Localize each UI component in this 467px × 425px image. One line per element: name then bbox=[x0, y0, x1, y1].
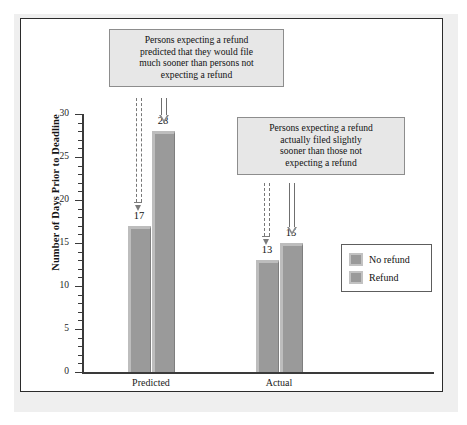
y-tick-minor-22 bbox=[78, 183, 82, 184]
y-tick-major-25 bbox=[75, 157, 82, 158]
chart-legend: No refund Refund bbox=[341, 244, 432, 292]
legend-item-no-refund[interactable]: No refund bbox=[349, 253, 425, 266]
x-category-label-predicted: Predicted bbox=[106, 378, 196, 388]
y-tick-minor-21 bbox=[78, 191, 82, 192]
legend-item-refund[interactable]: Refund bbox=[349, 271, 425, 284]
connector-solid-actual-refund bbox=[289, 183, 295, 227]
figure-frame: 30 25 20 15 10 5 0 Number of Days Prior … bbox=[20, 18, 443, 392]
annotation-line-1: Persons expecting a refund bbox=[116, 34, 277, 46]
y-tick-minor-6 bbox=[78, 320, 82, 321]
annotation2-line-1: Persons expecting a refund bbox=[244, 122, 398, 134]
connector-dashed-actual-no-refund bbox=[264, 183, 270, 236]
y-tick-label-5: 5 bbox=[49, 324, 69, 334]
y-tick-major-10 bbox=[75, 286, 82, 287]
annotation-line-3: much sooner than persons not bbox=[116, 57, 277, 69]
y-tick-minor-28 bbox=[78, 131, 82, 132]
annotation-callout-predicted: Persons expecting a refund predicted tha… bbox=[109, 29, 284, 87]
connector-solid-predicted-refund bbox=[161, 98, 167, 115]
y-tick-minor-23 bbox=[78, 174, 82, 175]
y-tick-minor-11 bbox=[78, 277, 82, 278]
bar-predicted-no-refund[interactable] bbox=[128, 226, 151, 372]
y-tick-minor-24 bbox=[78, 166, 82, 167]
y-tick-minor-29 bbox=[78, 123, 82, 124]
legend-label-refund: Refund bbox=[369, 273, 398, 283]
annotation2-line-2: actually filed slightly bbox=[244, 134, 398, 146]
annotation2-line-3: sooner than those not bbox=[244, 145, 398, 157]
annotation-line-2: predicted that they would file bbox=[116, 46, 277, 58]
annotation-line-4: expecting a refund bbox=[116, 69, 277, 81]
y-tick-minor-18 bbox=[78, 217, 82, 218]
y-tick-minor-13 bbox=[78, 260, 82, 261]
connector-dashed-cap-predicted bbox=[134, 202, 142, 203]
arrowhead-dashed-actual bbox=[263, 239, 269, 245]
connector-dashed-predicted-no-refund bbox=[136, 98, 142, 202]
arrowhead-solid-predicted bbox=[159, 115, 169, 123]
legend-swatch-refund bbox=[349, 271, 363, 284]
y-tick-minor-19 bbox=[78, 209, 82, 210]
bar-value-predicted-no-refund: 17 bbox=[124, 211, 154, 222]
bar-predicted-refund[interactable] bbox=[152, 131, 175, 372]
bar-actual-refund[interactable] bbox=[280, 243, 303, 372]
y-axis-title: Number of Days Prior to Deadline bbox=[50, 83, 61, 303]
arrowhead-solid-actual bbox=[287, 227, 297, 235]
x-axis-line bbox=[82, 372, 434, 374]
bar-actual-no-refund[interactable] bbox=[256, 260, 279, 372]
y-tick-minor-16 bbox=[78, 234, 82, 235]
y-tick-minor-26 bbox=[78, 148, 82, 149]
annotation-callout-actual: Persons expecting a refund actually file… bbox=[237, 117, 405, 175]
y-tick-minor-3 bbox=[78, 346, 82, 347]
chart-plot-area: 30 25 20 15 10 5 0 Number of Days Prior … bbox=[21, 19, 444, 393]
y-tick-minor-9 bbox=[78, 295, 82, 296]
y-tick-minor-8 bbox=[78, 303, 82, 304]
legend-label-no-refund: No refund bbox=[369, 255, 410, 265]
x-category-label-actual: Actual bbox=[234, 378, 324, 388]
annotation2-line-4: expecting a refund bbox=[244, 157, 398, 169]
y-axis-line bbox=[82, 114, 84, 372]
bar-value-actual-no-refund: 13 bbox=[252, 245, 282, 256]
y-tick-minor-17 bbox=[78, 226, 82, 227]
y-tick-minor-7 bbox=[78, 312, 82, 313]
y-tick-major-15 bbox=[75, 243, 82, 244]
y-tick-major-0 bbox=[75, 372, 82, 373]
y-tick-minor-27 bbox=[78, 140, 82, 141]
y-tick-major-30 bbox=[75, 114, 82, 115]
arrowhead-dashed-predicted bbox=[135, 205, 141, 211]
connector-dashed-cap-actual bbox=[262, 236, 270, 237]
figure-page: 30 25 20 15 10 5 0 Number of Days Prior … bbox=[0, 0, 467, 425]
y-tick-minor-2 bbox=[78, 355, 82, 356]
y-tick-minor-1 bbox=[78, 363, 82, 364]
y-tick-minor-14 bbox=[78, 252, 82, 253]
y-tick-label-0: 0 bbox=[49, 367, 69, 377]
y-tick-major-20 bbox=[75, 200, 82, 201]
y-tick-minor-12 bbox=[78, 269, 82, 270]
legend-swatch-no-refund bbox=[349, 253, 363, 266]
y-tick-minor-4 bbox=[78, 338, 82, 339]
y-tick-major-5 bbox=[75, 329, 82, 330]
